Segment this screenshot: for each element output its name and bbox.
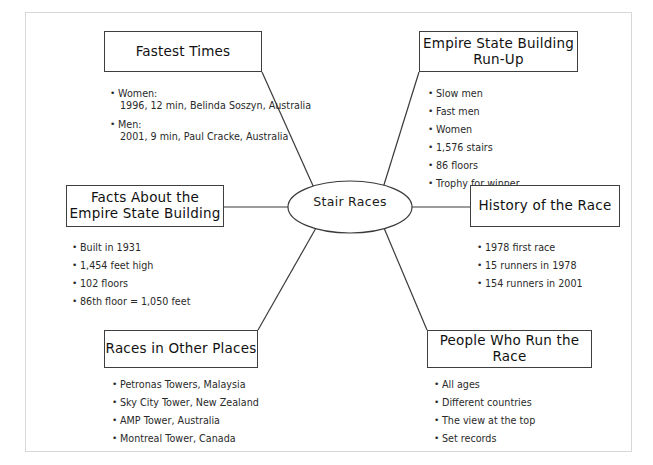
bullet-icon: • (72, 242, 80, 252)
bullet-list-history-of-the-race: •1978 first race •15 runners in 1978 •15… (477, 242, 583, 296)
list-item-label: Sky City Tower, New Zealand (120, 397, 259, 409)
bullet-icon: • (110, 119, 118, 129)
list-item-detail: 2001, 9 min, Paul Cracke, Australia (118, 131, 288, 143)
node-title-line1-facts-about-the-empire-state-building: Facts About the (91, 189, 199, 205)
list-item-label: 86 floors (436, 160, 478, 172)
list-item: •The view at the top (434, 415, 535, 427)
list-item-label: All ages (442, 379, 480, 391)
list-item: •Set records (434, 433, 535, 445)
node-box-facts-about-the-empire-state-building[interactable]: Facts About the Empire State Building (66, 185, 224, 227)
bullet-list-fastest-times: • Women: 1996, 12 min, Belinda Soszyn, A… (110, 88, 311, 149)
list-item-label: 15 runners in 1978 (485, 260, 577, 272)
node-box-races-in-other-places[interactable]: Races in Other Places (104, 330, 258, 368)
bullet-icon: • (72, 260, 80, 270)
list-item: •AMP Tower, Australia (112, 415, 259, 427)
list-item: •All ages (434, 379, 535, 391)
node-title-fastest-times: Fastest Times (136, 44, 231, 60)
list-item: •102 floors (72, 278, 190, 290)
bullet-icon: • (428, 124, 436, 134)
list-item-label: Women (436, 124, 472, 136)
mindmap-canvas: Stair Races Fastest Times • Women: 1996,… (0, 0, 653, 465)
bullet-icon: • (112, 433, 120, 443)
list-item: •Petronas Towers, Malaysia (112, 379, 259, 391)
list-item: •15 runners in 1978 (477, 260, 583, 272)
bullet-list-empire-state-building-run-up: •Slow men •Fast men •Women •1,576 stairs… (428, 88, 520, 196)
list-item: •86 floors (428, 160, 520, 172)
list-item: • Men: 2001, 9 min, Paul Cracke, Austral… (110, 119, 311, 144)
list-item-label: Different countries (442, 397, 532, 409)
bullet-icon: • (477, 242, 485, 252)
list-item-label: Men: (118, 119, 142, 130)
bullet-icon: • (112, 415, 120, 425)
list-item-label: Fast men (436, 106, 480, 118)
node-title-line1-empire-state-building-run-up: Empire State Building (423, 35, 574, 51)
node-title-line2-empire-state-building-run-up: Run-Up (473, 51, 523, 67)
list-item-label: The view at the top (442, 415, 535, 427)
bullet-icon: • (477, 278, 485, 288)
bullet-icon: • (112, 379, 120, 389)
list-item: •86th floor = 1,050 feet (72, 296, 190, 308)
node-box-people-who-run-the-race[interactable]: People Who Run the Race (427, 330, 592, 368)
list-item-label: 1978 first race (485, 242, 555, 254)
list-item: •Fast men (428, 106, 520, 118)
list-item: •1,454 feet high (72, 260, 190, 272)
list-item: •Montreal Tower, Canada (112, 433, 259, 445)
bullet-icon: • (434, 415, 442, 425)
bullet-icon: • (428, 106, 436, 116)
connector-empire-state-building-run-up (383, 72, 419, 188)
list-item-label: 154 runners in 2001 (485, 278, 583, 290)
list-item: •154 runners in 2001 (477, 278, 583, 290)
node-box-fastest-times[interactable]: Fastest Times (104, 31, 262, 72)
node-box-empire-state-building-run-up[interactable]: Empire State Building Run-Up (419, 31, 578, 72)
node-title-line2-facts-about-the-empire-state-building: Empire State Building (70, 205, 221, 221)
node-title-people-who-run-the-race: People Who Run the Race (428, 333, 591, 365)
node-box-history-of-the-race[interactable]: History of the Race (470, 185, 620, 227)
bullet-list-races-in-other-places: •Petronas Towers, Malaysia •Sky City Tow… (112, 379, 259, 451)
list-item-label: Built in 1931 (80, 242, 141, 254)
bullet-icon: • (72, 296, 80, 306)
list-item-detail: 1996, 12 min, Belinda Soszyn, Australia (118, 100, 311, 112)
list-item-label: Slow men (436, 88, 483, 100)
bullet-icon: • (434, 433, 442, 443)
list-item-label: Petronas Towers, Malaysia (120, 379, 246, 391)
bullet-icon: • (112, 397, 120, 407)
connector-people-who-run-the-race (384, 228, 427, 330)
list-item: •Women (428, 124, 520, 136)
list-item: •Different countries (434, 397, 535, 409)
bullet-icon: • (428, 88, 436, 98)
list-item-label: Set records (442, 433, 496, 445)
bullet-icon: • (428, 178, 436, 188)
list-item-label: Montreal Tower, Canada (120, 433, 236, 445)
list-item-label: Women: (118, 88, 157, 99)
list-item-label: AMP Tower, Australia (120, 415, 220, 427)
connector-races-in-other-places (258, 228, 316, 330)
bullet-icon: • (72, 278, 80, 288)
list-item: •1,576 stairs (428, 142, 520, 154)
list-item: •Sky City Tower, New Zealand (112, 397, 259, 409)
bullet-icon: • (434, 397, 442, 407)
node-title-races-in-other-places: Races in Other Places (106, 341, 257, 357)
list-item: • Women: 1996, 12 min, Belinda Soszyn, A… (110, 88, 311, 113)
list-item: •Built in 1931 (72, 242, 190, 254)
node-title-history-of-the-race: History of the Race (479, 198, 612, 214)
bullet-icon: • (428, 160, 436, 170)
list-item-label: 86th floor = 1,050 feet (80, 296, 190, 308)
bullet-icon: • (110, 88, 118, 98)
list-item: •1978 first race (477, 242, 583, 254)
bullet-icon: • (434, 379, 442, 389)
center-topic-label: Stair Races (288, 194, 412, 209)
list-item-label: 102 floors (80, 278, 128, 290)
list-item-label: 1,454 feet high (80, 260, 153, 272)
list-item: •Slow men (428, 88, 520, 100)
bullet-icon: • (477, 260, 485, 270)
bullet-icon: • (428, 142, 436, 152)
bullet-list-facts-about-the-empire-state-building: •Built in 1931 •1,454 feet high •102 flo… (72, 242, 190, 314)
list-item-label: 1,576 stairs (436, 142, 493, 154)
bullet-list-people-who-run-the-race: •All ages •Different countries •The view… (434, 379, 535, 451)
